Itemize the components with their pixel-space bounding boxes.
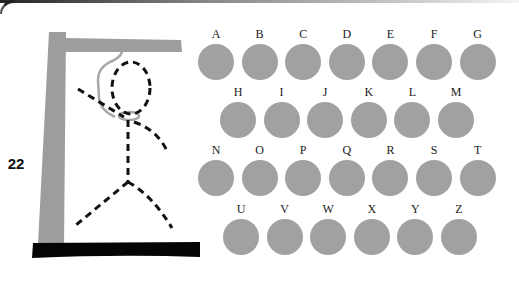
figure-right-arm <box>134 122 168 153</box>
letter-key-x[interactable]: X <box>354 202 390 258</box>
figure-right-leg <box>128 182 172 228</box>
letter-label: Y <box>397 202 433 216</box>
letter-label: M <box>438 85 474 99</box>
letter-label: B <box>242 27 278 41</box>
letter-key-f[interactable]: F <box>416 27 452 83</box>
letter-key-r[interactable]: R <box>372 143 408 199</box>
stick-figure <box>76 62 172 228</box>
letter-label: N <box>198 143 234 157</box>
letter-button-circle[interactable] <box>329 160 365 196</box>
letter-key-o[interactable]: O <box>242 143 278 199</box>
letter-button-circle[interactable] <box>397 219 433 255</box>
letter-label: D <box>329 27 365 41</box>
letter-key-s[interactable]: S <box>416 143 452 199</box>
letter-button-circle[interactable] <box>354 219 390 255</box>
letter-label: C <box>285 27 321 41</box>
letter-button-circle[interactable] <box>460 44 496 80</box>
letter-key-m[interactable]: M <box>438 85 474 141</box>
letter-button-circle[interactable] <box>285 44 321 80</box>
figure-left-leg <box>76 182 128 225</box>
letter-label: A <box>198 27 234 41</box>
letter-button-circle[interactable] <box>198 160 234 196</box>
gallows-beam <box>64 38 182 52</box>
gallows-base <box>32 242 200 258</box>
letter-label: Q <box>329 143 365 157</box>
letter-label: H <box>220 85 256 99</box>
letter-button-circle[interactable] <box>394 102 430 138</box>
letter-button-circle[interactable] <box>438 102 474 138</box>
letter-key-q[interactable]: Q <box>329 143 365 199</box>
letter-label: O <box>242 143 278 157</box>
letter-label: X <box>354 202 390 216</box>
letter-button-circle[interactable] <box>242 44 278 80</box>
letter-key-t[interactable]: T <box>460 143 496 199</box>
letter-label: P <box>285 143 321 157</box>
letter-key-z[interactable]: Z <box>441 202 477 258</box>
figure-head <box>112 62 150 114</box>
letter-label: J <box>307 85 343 99</box>
letter-button-circle[interactable] <box>329 44 365 80</box>
letter-button-circle[interactable] <box>242 160 278 196</box>
letter-label: F <box>416 27 452 41</box>
letter-button-circle[interactable] <box>285 160 321 196</box>
letter-button-circle[interactable] <box>264 102 300 138</box>
letter-button-circle[interactable] <box>223 219 259 255</box>
letter-key-w[interactable]: W <box>310 202 346 258</box>
letter-key-a[interactable]: A <box>198 27 234 83</box>
letter-key-j[interactable]: J <box>307 85 343 141</box>
letter-button-circle[interactable] <box>441 219 477 255</box>
letter-label: K <box>351 85 387 99</box>
letter-key-u[interactable]: U <box>223 202 259 258</box>
letter-button-circle[interactable] <box>416 160 452 196</box>
letter-button-circle[interactable] <box>198 44 234 80</box>
gallows-post <box>38 32 66 244</box>
letter-button-circle[interactable] <box>372 160 408 196</box>
letter-button-circle[interactable] <box>307 102 343 138</box>
letter-key-c[interactable]: C <box>285 27 321 83</box>
letter-label: V <box>267 202 303 216</box>
letter-button-circle[interactable] <box>351 102 387 138</box>
letter-key-k[interactable]: K <box>351 85 387 141</box>
letter-key-g[interactable]: G <box>460 27 496 83</box>
letter-label: G <box>460 27 496 41</box>
letter-label: U <box>223 202 259 216</box>
letter-button-circle[interactable] <box>267 219 303 255</box>
letter-key-y[interactable]: Y <box>397 202 433 258</box>
letter-label: E <box>372 27 408 41</box>
letter-key-i[interactable]: I <box>264 85 300 141</box>
letter-key-d[interactable]: D <box>329 27 365 83</box>
letter-key-e[interactable]: E <box>372 27 408 83</box>
letter-label: Z <box>441 202 477 216</box>
letter-button-circle[interactable] <box>460 160 496 196</box>
letter-label: S <box>416 143 452 157</box>
letter-key-h[interactable]: H <box>220 85 256 141</box>
letter-label: R <box>372 143 408 157</box>
letter-label: T <box>460 143 496 157</box>
letter-label: W <box>310 202 346 216</box>
letter-button-circle[interactable] <box>220 102 256 138</box>
letter-button-circle[interactable] <box>372 44 408 80</box>
letter-key-v[interactable]: V <box>267 202 303 258</box>
letter-label: L <box>394 85 430 99</box>
letter-button-circle[interactable] <box>416 44 452 80</box>
letter-key-b[interactable]: B <box>242 27 278 83</box>
letter-label: I <box>264 85 300 99</box>
letter-key-l[interactable]: L <box>394 85 430 141</box>
letter-key-p[interactable]: P <box>285 143 321 199</box>
letter-button-circle[interactable] <box>310 219 346 255</box>
letter-key-n[interactable]: N <box>198 143 234 199</box>
